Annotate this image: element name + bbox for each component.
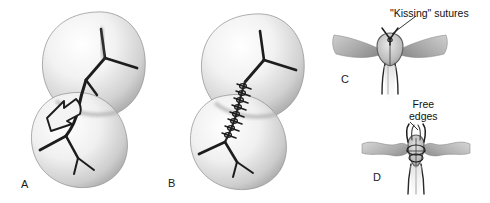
callout-free-edges: Free edges bbox=[409, 99, 438, 123]
tissue-flange-right bbox=[420, 142, 470, 156]
panel-label-b: B bbox=[168, 178, 175, 189]
panel-label-a: A bbox=[21, 179, 28, 190]
panel-label-c: C bbox=[341, 74, 349, 85]
leader-line-free-edges bbox=[410, 122, 418, 130]
panel-c-kissing-sutures: C bbox=[330, 14, 490, 100]
panel-a-lacerated-kidney: A bbox=[0, 0, 165, 203]
panel-d-free-edges: D bbox=[360, 120, 490, 200]
callout-kissing-sutures: "Kissing" sutures bbox=[390, 8, 469, 20]
medical-illustration-figure: A bbox=[0, 0, 490, 203]
panel-b-sutured-kidney: B bbox=[157, 0, 327, 203]
tissue-flange-left bbox=[362, 142, 412, 156]
panel-label-d: D bbox=[373, 172, 381, 183]
